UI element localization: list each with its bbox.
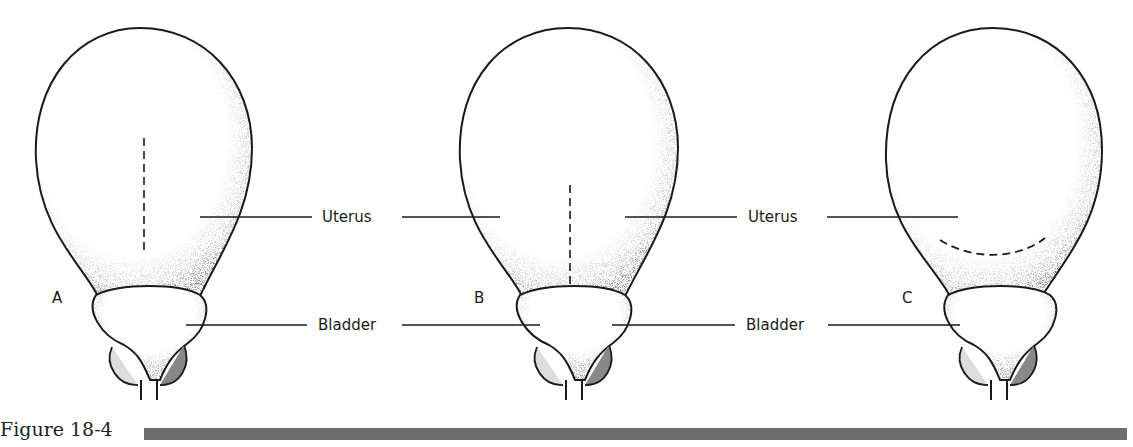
uterus-shading-a (36, 28, 252, 296)
panel-letter-c: C (902, 289, 912, 307)
label-uterus-2: Uterus (748, 208, 798, 226)
label-bladder-1: Bladder (318, 316, 377, 334)
caption-rule (144, 428, 1127, 440)
uterus-incision-diagram: A B C Uterus Bladder (0, 0, 1133, 447)
panel-a: A (36, 28, 252, 400)
panel-letter-a: A (52, 289, 63, 307)
panel-b: B (460, 28, 678, 400)
panel-c: C (886, 28, 1102, 400)
panel-letter-b: B (474, 289, 484, 307)
label-bladder-2: Bladder (746, 316, 805, 334)
figure-caption: Figure 18-4 (0, 418, 113, 440)
label-uterus-1: Uterus (322, 208, 372, 226)
